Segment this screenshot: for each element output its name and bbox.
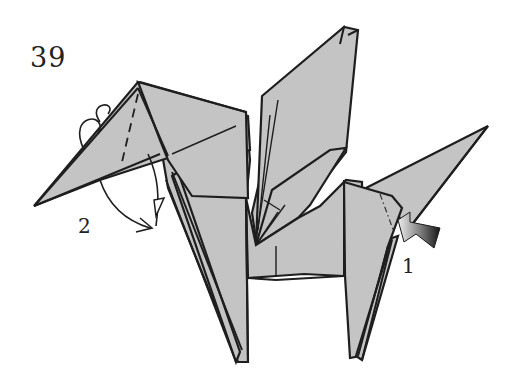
pegasus-fold-drawing xyxy=(0,0,520,380)
origami-diagram: 39 xyxy=(0,0,520,380)
label-2: 2 xyxy=(78,214,91,238)
label-1: 1 xyxy=(402,254,415,278)
push-arrow-icon xyxy=(398,212,440,248)
head-neck xyxy=(34,82,250,206)
hind-legs xyxy=(344,182,402,360)
